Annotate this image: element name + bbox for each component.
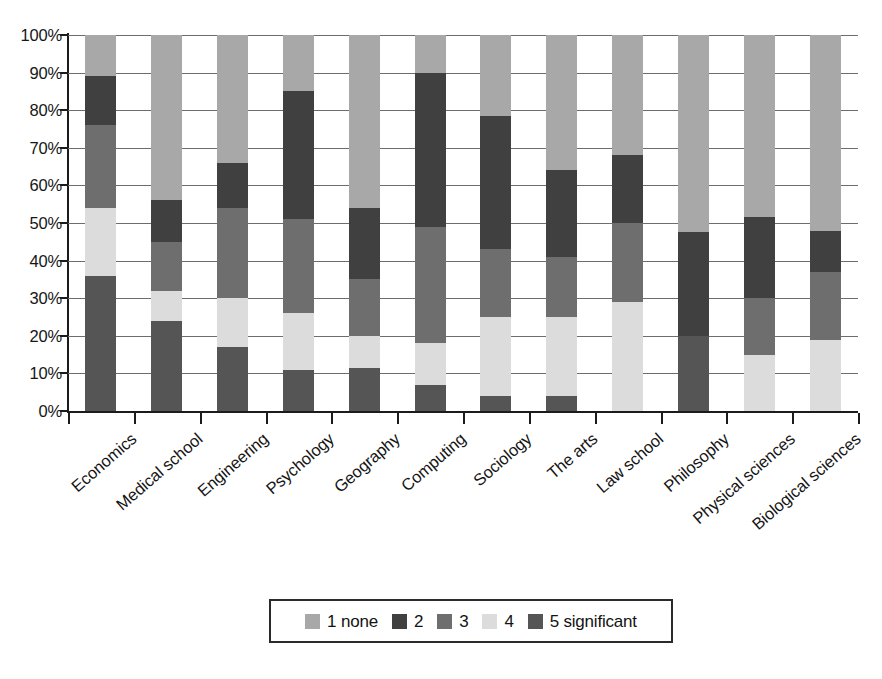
bar-group[interactable] xyxy=(415,35,446,411)
bar-segment[interactable] xyxy=(546,317,577,396)
legend-label: 3 xyxy=(459,613,468,630)
bar-group[interactable] xyxy=(283,35,314,411)
y-axis-tick-label: 20% xyxy=(2,328,62,345)
bar-segment[interactable] xyxy=(612,35,643,155)
bar-segment[interactable] xyxy=(217,347,248,411)
legend-item[interactable]: 3 xyxy=(437,613,468,630)
bar-segment[interactable] xyxy=(744,355,775,411)
bar-segment[interactable] xyxy=(283,91,314,219)
bar-segment[interactable] xyxy=(283,370,314,411)
bar-segment[interactable] xyxy=(415,343,446,384)
legend-label: 2 xyxy=(414,613,423,630)
bar-segment[interactable] xyxy=(349,35,380,208)
x-axis-tick-mark xyxy=(463,413,465,424)
y-axis-tick-label: 70% xyxy=(2,140,62,157)
x-axis-category-label: Medical school xyxy=(113,430,205,514)
bar-segment[interactable] xyxy=(678,336,709,411)
bar-segment[interactable] xyxy=(810,35,841,231)
bar-segment[interactable] xyxy=(810,272,841,340)
bar-segment[interactable] xyxy=(217,208,248,298)
bar-group[interactable] xyxy=(151,35,182,411)
bar-segment[interactable] xyxy=(810,340,841,411)
bar-segment[interactable] xyxy=(480,35,511,116)
bar-segment[interactable] xyxy=(678,35,709,232)
bar-series-container xyxy=(68,35,858,411)
bar-segment[interactable] xyxy=(151,200,182,241)
bar-segment[interactable] xyxy=(546,170,577,256)
bar-segment[interactable] xyxy=(480,396,511,411)
bar-segment[interactable] xyxy=(415,227,446,344)
bar-segment[interactable] xyxy=(349,336,380,368)
bar-segment[interactable] xyxy=(810,231,841,272)
bar-group[interactable] xyxy=(349,35,380,411)
bar-segment[interactable] xyxy=(85,125,116,208)
bar-segment[interactable] xyxy=(283,219,314,313)
y-axis-tick-label: 60% xyxy=(2,177,62,194)
bar-group[interactable] xyxy=(744,35,775,411)
bar-segment[interactable] xyxy=(480,116,511,249)
bar-segment[interactable] xyxy=(283,35,314,91)
plot-area xyxy=(68,35,858,411)
y-axis-tick-label: 80% xyxy=(2,102,62,119)
bar-segment[interactable] xyxy=(151,242,182,291)
bar-segment[interactable] xyxy=(546,257,577,317)
bar-segment[interactable] xyxy=(85,276,116,411)
bar-segment[interactable] xyxy=(546,396,577,411)
bar-group[interactable] xyxy=(546,35,577,411)
bar-segment[interactable] xyxy=(480,249,511,317)
y-axis-tick-label: 50% xyxy=(2,215,62,232)
x-axis-tick-mark xyxy=(858,413,860,424)
bar-group[interactable] xyxy=(217,35,248,411)
bar-segment[interactable] xyxy=(151,321,182,411)
bar-group[interactable] xyxy=(85,35,116,411)
bar-segment[interactable] xyxy=(612,302,643,411)
x-axis-tick-mark xyxy=(529,413,531,424)
x-axis-ticks xyxy=(68,413,858,425)
y-axis-tick-label: 10% xyxy=(2,365,62,382)
bar-segment[interactable] xyxy=(349,279,380,335)
bar-segment[interactable] xyxy=(85,35,116,76)
bar-segment[interactable] xyxy=(744,298,775,354)
bar-segment[interactable] xyxy=(744,35,775,217)
bar-segment[interactable] xyxy=(349,368,380,411)
bar-segment[interactable] xyxy=(349,208,380,279)
legend-swatch-icon xyxy=(437,614,452,629)
bar-segment[interactable] xyxy=(85,208,116,276)
bar-segment[interactable] xyxy=(744,217,775,298)
bar-segment[interactable] xyxy=(415,35,446,73)
bar-segment[interactable] xyxy=(217,163,248,208)
legend-label: 5 significant xyxy=(550,613,637,630)
y-axis-tick-label: 30% xyxy=(2,290,62,307)
bar-segment[interactable] xyxy=(480,317,511,396)
bar-group[interactable] xyxy=(612,35,643,411)
legend-item[interactable]: 1 none xyxy=(305,613,378,630)
x-axis-tick-mark xyxy=(331,413,333,424)
bar-group[interactable] xyxy=(810,35,841,411)
x-axis-tick-mark xyxy=(595,413,597,424)
legend-swatch-icon xyxy=(305,614,320,629)
bar-segment[interactable] xyxy=(217,298,248,347)
bar-segment[interactable] xyxy=(151,291,182,321)
bar-segment[interactable] xyxy=(283,313,314,369)
bar-segment[interactable] xyxy=(217,35,248,163)
bar-segment[interactable] xyxy=(678,232,709,335)
x-axis-tick-mark xyxy=(661,413,663,424)
bar-segment[interactable] xyxy=(612,223,643,302)
x-axis-tick-mark xyxy=(134,413,136,424)
x-axis-category-label: Philosophy xyxy=(661,430,732,495)
legend-item[interactable]: 4 xyxy=(482,613,513,630)
x-axis-category-label: Sociology xyxy=(470,430,534,489)
legend-label: 4 xyxy=(504,613,513,630)
bar-segment[interactable] xyxy=(546,35,577,170)
bar-segment[interactable] xyxy=(415,73,446,227)
y-axis-tick-label: 40% xyxy=(2,253,62,270)
legend-item[interactable]: 2 xyxy=(392,613,423,630)
bar-segment[interactable] xyxy=(612,155,643,223)
bar-segment[interactable] xyxy=(415,385,446,411)
bar-segment[interactable] xyxy=(151,35,182,200)
bar-segment[interactable] xyxy=(85,76,116,125)
x-axis-category-label: Computing xyxy=(398,430,469,495)
legend-item[interactable]: 5 significant xyxy=(528,613,637,630)
bar-group[interactable] xyxy=(678,35,709,411)
bar-group[interactable] xyxy=(480,35,511,411)
